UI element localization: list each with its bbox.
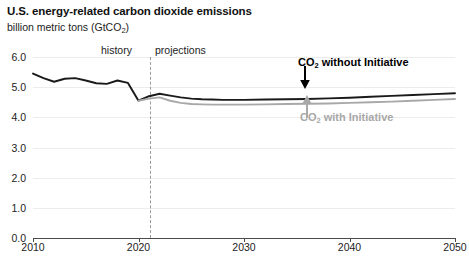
page-title: U.S. energy-related carbon dioxide emiss… xyxy=(7,5,252,17)
chart-subtitle: billion metric tons (GtCO2) xyxy=(7,21,129,35)
annotation-co2-without-initiative: CO2 without Initiative xyxy=(298,56,409,70)
history-projection-divider xyxy=(150,57,151,238)
ann-with-suffix: with Initiative xyxy=(321,111,394,123)
y-axis-tick-label: 5.0 xyxy=(0,81,26,93)
history-label: history xyxy=(101,44,132,56)
subtitle-text: billion metric tons (GtCO xyxy=(7,21,121,33)
x-axis-tick xyxy=(33,238,34,242)
gridline xyxy=(33,148,455,149)
gridline xyxy=(33,178,455,179)
y-axis-tick-label: 3.0 xyxy=(0,142,26,154)
ann-without-suffix: without Initiative xyxy=(319,56,409,68)
y-axis-tick-label: 4.0 xyxy=(0,111,26,123)
y-axis-tick-label: 1.0 xyxy=(0,202,26,214)
x-axis-tick-label: 2040 xyxy=(338,241,361,253)
x-axis-tick-label: 2050 xyxy=(443,241,466,253)
x-axis-tick-label: 2030 xyxy=(232,241,255,253)
plot-area xyxy=(33,57,455,238)
gridline xyxy=(33,208,455,209)
x-axis-tick xyxy=(350,238,351,242)
x-axis-tick xyxy=(139,238,140,242)
y-axis-tick-label: 2.0 xyxy=(0,172,26,184)
y-axis-tick-label: 6.0 xyxy=(0,51,26,63)
x-axis-tick-label: 2010 xyxy=(21,241,44,253)
x-axis-tick xyxy=(244,238,245,242)
x-axis-tick-label: 2020 xyxy=(127,241,150,253)
x-axis-tick xyxy=(455,238,456,242)
arrow-up-icon xyxy=(298,94,316,118)
chart-root: U.S. energy-related carbon dioxide emiss… xyxy=(0,0,469,264)
subtitle-close: ) xyxy=(126,21,130,33)
gridline xyxy=(33,87,455,88)
projections-label: projections xyxy=(155,44,206,56)
arrow-down-icon xyxy=(296,66,314,90)
